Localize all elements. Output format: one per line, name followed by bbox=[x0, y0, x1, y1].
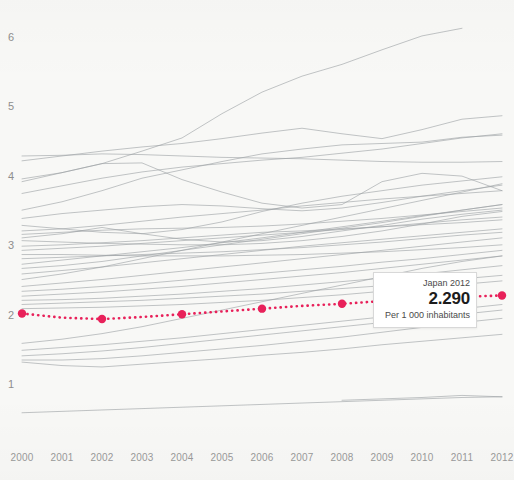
y-axis-tick-label: 2 bbox=[8, 309, 14, 321]
series-line bbox=[342, 395, 502, 400]
tooltip-value: 2.290 bbox=[378, 289, 470, 309]
data-tooltip[interactable]: Japan 2012 2.290 Per 1 000 inhabitants bbox=[373, 272, 477, 328]
y-axis-tick-label: 5 bbox=[8, 100, 14, 112]
x-axis-tick-label: 2005 bbox=[202, 452, 242, 463]
y-axis-tick-label: 1 bbox=[8, 378, 14, 390]
highlight-data-point[interactable] bbox=[498, 291, 506, 299]
highlight-data-point[interactable] bbox=[178, 310, 186, 318]
series-line bbox=[22, 220, 502, 246]
series-line bbox=[22, 185, 502, 218]
series-lines-layer bbox=[22, 28, 502, 412]
series-line bbox=[22, 163, 502, 208]
x-axis-tick-label: 2004 bbox=[162, 452, 202, 463]
series-line bbox=[22, 177, 502, 234]
highlight-data-point[interactable] bbox=[18, 309, 26, 317]
series-line bbox=[22, 154, 502, 162]
x-axis-tick-label: 2003 bbox=[122, 452, 162, 463]
x-axis-tick-label: 2002 bbox=[82, 452, 122, 463]
x-axis-tick-label: 2011 bbox=[442, 452, 482, 463]
tooltip-title: Japan 2012 bbox=[378, 277, 470, 289]
highlight-data-point[interactable] bbox=[338, 300, 346, 308]
x-axis-tick-label: 2012 bbox=[482, 452, 514, 463]
highlight-data-point[interactable] bbox=[98, 315, 106, 323]
highlight-data-point[interactable] bbox=[258, 304, 266, 312]
series-line bbox=[22, 397, 502, 413]
x-axis-tick-label: 2006 bbox=[242, 452, 282, 463]
legend-strip bbox=[0, 466, 514, 480]
y-axis-tick-label: 4 bbox=[8, 170, 14, 182]
chart-plot-area bbox=[0, 0, 514, 480]
series-line bbox=[22, 334, 502, 367]
series-line bbox=[22, 28, 462, 179]
x-axis-tick-label: 2007 bbox=[282, 452, 322, 463]
series-line bbox=[22, 212, 502, 245]
y-axis-tick-label: 3 bbox=[8, 239, 14, 251]
x-axis-tick-label: 2001 bbox=[42, 452, 82, 463]
tooltip-unit: Per 1 000 inhabitants bbox=[378, 309, 470, 322]
x-axis-tick-label: 2010 bbox=[402, 452, 442, 463]
y-axis-tick-label: 6 bbox=[8, 31, 14, 43]
x-axis-tick-label: 2009 bbox=[362, 452, 402, 463]
series-line bbox=[22, 208, 502, 234]
line-chart: 654321 200020012002200320042005200620072… bbox=[0, 0, 514, 480]
x-axis-tick-label: 2008 bbox=[322, 452, 362, 463]
x-axis-tick-label: 2000 bbox=[2, 452, 42, 463]
